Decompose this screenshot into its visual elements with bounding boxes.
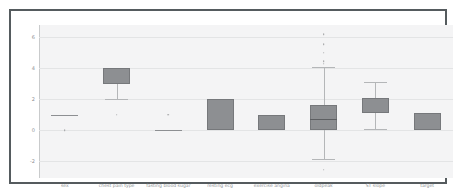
outlier-point (323, 33, 325, 35)
outlier-point (323, 169, 325, 171)
x-axis-tick-label-sex: sex (61, 183, 69, 188)
outlier-point (64, 129, 66, 131)
x-axis-tick-label-target: target (420, 183, 434, 188)
y-axis-tick-label: 2 (32, 96, 35, 102)
box-chest-pain-type (103, 68, 130, 83)
whisker-upper (324, 67, 325, 106)
outlier-point (323, 61, 325, 63)
whisker-cap-upper (364, 82, 387, 83)
box-resting-ecg (207, 99, 234, 130)
outlier-point (116, 114, 118, 116)
whisker-lower (375, 113, 376, 128)
boxplot-axes: -20246sexchest pain typefasting blood su… (39, 25, 453, 178)
figure-canvas: -20246sexchest pain typefasting blood su… (0, 0, 459, 196)
box-fasting-blood-sugar (155, 130, 182, 131)
x-axis-tick-label-resting-ecg: resting ecg (207, 183, 233, 188)
gridline-y (39, 37, 453, 38)
x-axis-tick-label-ST-slope: ST slope (366, 183, 385, 188)
box-oldpeak (310, 105, 337, 130)
outlier-point (168, 114, 170, 116)
gridline-y (39, 161, 453, 162)
gridline-y (39, 68, 453, 69)
x-axis-tick-label-chest-pain-type: chest pain type (99, 183, 135, 188)
box-sex (51, 115, 78, 116)
x-axis-tick-label-fasting-blood-sugar: fasting blood sugar (146, 183, 190, 188)
box-ST-slope (362, 98, 389, 113)
y-axis-tick-label: 4 (32, 65, 35, 71)
y-axis-tick-label: 0 (32, 127, 35, 133)
outlier-point (323, 63, 325, 65)
box-target (414, 113, 441, 130)
x-axis-tick-label-oldpeak: oldpeak (315, 183, 333, 188)
gridline-y (39, 99, 453, 100)
x-axis-tick-label-exercise-angina: exercise angina (254, 183, 290, 188)
outlier-point (323, 44, 325, 46)
whisker-cap-lower (312, 159, 335, 160)
whisker-lower (117, 84, 118, 99)
figure-frame: -20246sexchest pain typefasting blood su… (9, 9, 447, 184)
whisker-upper (375, 82, 376, 97)
whisker-cap-lower (105, 99, 128, 100)
box-exercise-angina (258, 115, 285, 130)
whisker-cap-upper (312, 67, 335, 68)
gridline-y (39, 130, 453, 131)
whisker-cap-lower (364, 129, 387, 130)
outlier-point (323, 52, 325, 54)
y-axis-tick-label: 6 (32, 34, 35, 40)
y-axis-tick-label: -2 (30, 158, 35, 164)
median-line (310, 119, 337, 120)
whisker-lower (324, 130, 325, 159)
